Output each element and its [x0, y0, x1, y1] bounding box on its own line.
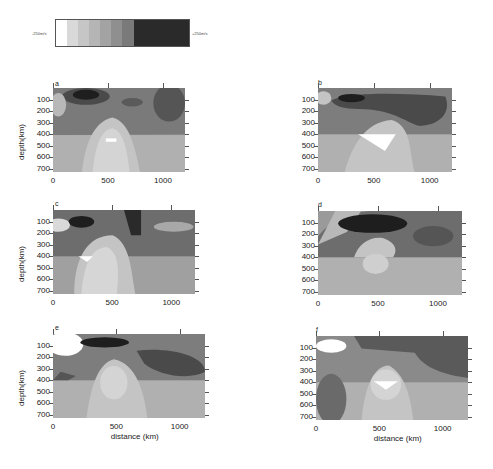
tick-mark: [185, 157, 189, 158]
tick-mark: [195, 222, 199, 223]
tick-mark: [49, 111, 53, 112]
y-tick-label: 500: [26, 141, 50, 150]
tick-mark: [185, 111, 189, 112]
y-tick-label: 200: [289, 354, 313, 363]
y-tick-label: 400: [26, 251, 50, 260]
tick-mark: [468, 417, 472, 418]
x-tick-label: 0: [38, 298, 68, 307]
tick-mark: [452, 134, 456, 135]
colorbar: [55, 19, 190, 47]
tick-mark: [205, 369, 209, 370]
y-axis-label: depth(km): [17, 370, 26, 406]
tick-mark: [205, 415, 209, 416]
tick-mark: [116, 329, 117, 334]
y-tick-label: 100: [291, 218, 315, 227]
tick-mark: [163, 83, 164, 88]
tick-mark: [314, 123, 318, 124]
tick-mark: [53, 205, 54, 210]
tick-mark: [195, 256, 199, 257]
tick-mark: [49, 256, 53, 257]
x-tick-label: 500: [93, 176, 123, 185]
x-axis-label: distance (km): [111, 432, 159, 441]
tick-mark: [314, 100, 318, 101]
tick-mark: [312, 394, 316, 395]
tick-mark: [462, 234, 466, 235]
y-tick-label: 600: [26, 398, 50, 407]
tick-mark: [49, 157, 53, 158]
tick-mark: [468, 359, 472, 360]
x-tick-label: 1000: [415, 176, 445, 185]
y-tick-label: 300: [26, 240, 50, 249]
tick-mark: [314, 234, 318, 235]
tick-mark: [49, 268, 53, 269]
y-tick-label: 600: [26, 274, 50, 283]
x-tick-label: 0: [38, 176, 68, 185]
y-tick-label: 200: [26, 106, 50, 115]
y-tick-label: 600: [26, 152, 50, 161]
contour-plot: [316, 336, 468, 420]
tick-mark: [318, 206, 319, 211]
panel-label: a: [55, 80, 59, 87]
tick-mark: [316, 331, 317, 336]
y-tick-label: 600: [291, 275, 315, 284]
tick-mark: [195, 245, 199, 246]
tick-mark: [438, 206, 439, 211]
x-tick-label: 500: [359, 176, 389, 185]
y-axis-label: depth(km): [17, 246, 26, 282]
colorbar-swatch: [122, 20, 133, 46]
tick-mark: [53, 329, 54, 334]
contour-plot: [53, 210, 195, 294]
y-tick-label: 700: [26, 410, 50, 419]
tick-mark: [462, 269, 466, 270]
x-tick-label: 1000: [428, 424, 458, 433]
tick-mark: [49, 380, 53, 381]
tick-mark: [195, 291, 199, 292]
tick-mark: [171, 205, 172, 210]
y-tick-label: 700: [26, 286, 50, 295]
tick-mark: [49, 146, 53, 147]
y-tick-label: 300: [291, 241, 315, 250]
tick-mark: [312, 359, 316, 360]
y-tick-label: 100: [26, 341, 50, 350]
y-tick-label: 700: [291, 164, 315, 173]
contour-plot: [53, 334, 205, 418]
y-tick-label: 100: [289, 343, 313, 352]
tick-mark: [312, 371, 316, 372]
tick-mark: [49, 245, 53, 246]
tick-mark: [49, 123, 53, 124]
tick-mark: [195, 268, 199, 269]
y-tick-label: 200: [291, 229, 315, 238]
tick-mark: [185, 146, 189, 147]
tick-mark: [312, 417, 316, 418]
tick-mark: [49, 346, 53, 347]
x-tick-label: 0: [38, 422, 68, 431]
colorbar-swatch: [56, 20, 67, 46]
tick-mark: [462, 257, 466, 258]
tick-mark: [312, 405, 316, 406]
y-tick-label: 400: [291, 252, 315, 261]
panel-label: e: [55, 324, 59, 331]
tick-mark: [379, 331, 380, 336]
x-tick-label: 1000: [423, 299, 453, 308]
y-tick-label: 100: [26, 95, 50, 104]
y-tick-label: 400: [289, 377, 313, 386]
tick-mark: [180, 329, 181, 334]
tick-mark: [452, 157, 456, 158]
panel-label: c: [55, 200, 59, 207]
y-tick-label: 400: [291, 129, 315, 138]
tick-mark: [53, 83, 54, 88]
tick-mark: [108, 83, 109, 88]
x-tick-label: 500: [101, 422, 131, 431]
tick-mark: [49, 392, 53, 393]
tick-mark: [462, 246, 466, 247]
tick-mark: [195, 233, 199, 234]
tick-mark: [205, 380, 209, 381]
y-tick-label: 300: [26, 118, 50, 127]
tick-mark: [49, 279, 53, 280]
tick-mark: [185, 123, 189, 124]
tick-mark: [314, 246, 318, 247]
tick-mark: [462, 292, 466, 293]
tick-mark: [318, 83, 319, 88]
y-tick-label: 200: [26, 228, 50, 237]
contour-plot: [318, 211, 462, 295]
